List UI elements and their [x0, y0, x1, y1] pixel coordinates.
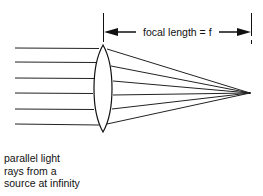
dimension-arrow-left [104, 28, 136, 36]
converging-rays [107, 49, 250, 124]
convex-lens [94, 45, 112, 132]
focal-point [249, 92, 251, 94]
source-caption: parallel light rays from a source at inf… [4, 152, 80, 190]
caption-line: parallel light [4, 152, 80, 165]
dimension-arrow-right [219, 28, 251, 36]
caption-line: rays from a [4, 165, 80, 178]
incoming-parallel-rays [15, 48, 99, 125]
caption-line: source at infinity [4, 177, 80, 190]
focal-length-label: focal length = f [143, 26, 212, 38]
